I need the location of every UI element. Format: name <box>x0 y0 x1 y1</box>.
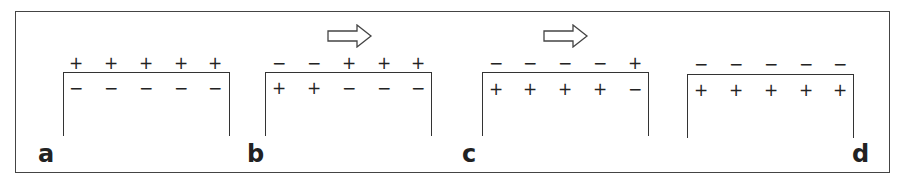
charge-sign: − <box>691 56 711 72</box>
charge-sign: − <box>625 81 645 97</box>
charge-sign: − <box>374 80 394 96</box>
charge-sign: − <box>796 56 816 72</box>
charge-sign: − <box>761 56 781 72</box>
charge-sign: − <box>590 55 610 71</box>
charge-sign: + <box>520 81 540 97</box>
outside-charges: − − − − − <box>0 56 220 72</box>
charge-sign: + <box>374 55 394 71</box>
panel-label: d <box>852 142 869 166</box>
charge-sign: + <box>691 82 711 98</box>
charge-sign: + <box>726 82 746 98</box>
charge-sign: − <box>555 55 575 71</box>
charge-sign: − <box>269 55 289 71</box>
charge-sign: + <box>830 82 850 98</box>
right-arrow-icon <box>543 24 589 48</box>
charge-sign: + <box>486 81 506 97</box>
charge-sign: + <box>408 55 428 71</box>
inside-charges: + + + + + <box>0 82 220 98</box>
charge-sign: − <box>726 56 746 72</box>
right-arrow-icon <box>327 24 373 48</box>
charge-sign: + <box>590 81 610 97</box>
charge-sign: − <box>339 80 359 96</box>
charge-sign: − <box>520 55 540 71</box>
charge-sign: + <box>625 55 645 71</box>
charge-sign: − <box>408 80 428 96</box>
charge-sign: − <box>304 55 324 71</box>
panel-label: c <box>462 142 476 166</box>
panel-label: b <box>247 142 264 166</box>
panel-d: − − − − − + + + + + d <box>0 0 220 184</box>
charge-sign: + <box>269 80 289 96</box>
charge-sign: + <box>796 82 816 98</box>
charge-sign: − <box>486 55 506 71</box>
charge-sign: + <box>304 80 324 96</box>
charge-sign: + <box>339 55 359 71</box>
charge-sign: + <box>761 82 781 98</box>
charge-sign: + <box>555 81 575 97</box>
charge-sign: − <box>830 56 850 72</box>
